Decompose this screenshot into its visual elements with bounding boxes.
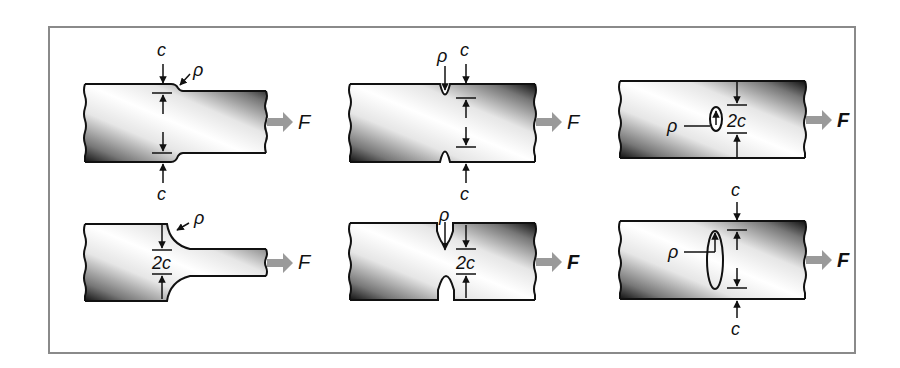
label-force: F [837,249,850,271]
label-rho: ρ [193,208,204,228]
label-rho: ρ [192,60,203,80]
label-c-bottom: c [460,184,469,204]
label-rho: ρ [438,205,449,225]
label-2c: 2c [151,253,171,273]
force-arrow-icon [267,253,293,273]
label-2c: 2c [726,111,746,131]
label-rho: ρ [667,242,678,262]
panel-fillet-shoulder: 2c ρ F [84,208,312,301]
force-arrow-icon [806,250,832,270]
label-force: F [298,111,312,133]
label-c-top: c [157,40,166,60]
label-force: F [567,251,580,273]
force-arrow-icon [536,112,562,132]
panel-deep-u-notches: 2c ρ c F [349,205,580,300]
label-c-bottom: c [157,184,166,204]
label-c-top: c [460,40,469,60]
label-c-top: c [731,180,740,200]
panel-edge-notches: c ρ c F [349,40,581,204]
force-arrow-icon [536,252,562,272]
panel-small-elliptical-hole: 2c ρ F [619,81,850,158]
label-2c: 2c [455,253,475,273]
force-arrow-icon [806,110,832,130]
force-arrow-icon [267,112,293,132]
panel-large-elliptical-hole: c ρ c F [619,180,850,339]
label-force: F [837,109,850,131]
label-rho: ρ [436,46,447,66]
label-force: F [567,111,581,133]
label-c-bottom: c [731,319,740,339]
stress-concentration-diagram: c ρ c F c ρ c F 2c [0,0,900,368]
panel-shoulder-step: c ρ c F [84,40,312,204]
label-force: F [298,251,312,273]
label-rho: ρ [666,116,677,136]
